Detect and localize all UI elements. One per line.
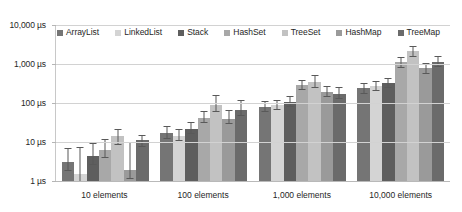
x-axis: 10 elements100 elements1,000 elements10,… — [55, 183, 450, 211]
error-bar-cap-top — [139, 135, 146, 136]
bar[interactable] — [271, 105, 283, 181]
error-bar-cap-bottom — [114, 144, 121, 145]
legend-swatch-icon — [178, 30, 184, 36]
legend-item-treemap[interactable]: TreeMap — [398, 28, 440, 37]
error-bar-cap-top — [188, 122, 195, 123]
error-bar-cap-top — [274, 100, 281, 101]
chart-legend: ArrayListLinkedListStackHashSetTreeSetHa… — [55, 26, 440, 39]
error-bar-cap-top — [385, 78, 392, 79]
error-bar-cap-top — [237, 100, 244, 101]
y-axis-tick-label: 10 µs — [26, 138, 46, 147]
legend-item-treeset[interactable]: TreeSet — [282, 28, 321, 37]
legend-swatch-icon — [282, 30, 288, 36]
error-bar — [400, 57, 401, 67]
bar[interactable] — [370, 86, 382, 181]
legend-swatch-icon — [57, 30, 63, 36]
error-bar-cap-bottom — [422, 73, 429, 74]
error-bar-cap-top — [311, 75, 318, 76]
error-bar — [178, 129, 179, 141]
error-bar-cap-top — [175, 129, 182, 130]
error-bar-cap-top — [397, 57, 404, 58]
error-bar-cap-top — [372, 81, 379, 82]
y-axis-tick-label: 1,000 µs — [14, 60, 46, 69]
error-bar-cap-bottom — [200, 122, 207, 123]
y-axis: 1 µs10 µs100 µs1,000 µs10,000 µs — [0, 0, 54, 212]
error-bar-cap-bottom — [434, 66, 441, 67]
bar[interactable] — [395, 62, 407, 181]
error-bar — [228, 110, 229, 123]
bar[interactable] — [259, 107, 271, 181]
x-axis-tick-label: 10 elements — [55, 183, 154, 211]
bar[interactable] — [173, 136, 185, 181]
error-bar — [68, 148, 69, 170]
error-bar-cap-top — [324, 86, 331, 87]
error-bar-cap-bottom — [262, 111, 269, 112]
error-bar-cap-top — [360, 83, 367, 84]
bar[interactable] — [222, 119, 234, 181]
legend-swatch-icon — [398, 30, 404, 36]
error-bar-cap-bottom — [188, 133, 195, 134]
error-bar-cap-top — [299, 80, 306, 81]
error-bar — [142, 135, 143, 146]
bar[interactable] — [308, 82, 320, 181]
bar[interactable] — [296, 85, 308, 181]
gridline — [56, 64, 450, 65]
error-bar-cap-top — [102, 139, 109, 140]
legend-label: HashMap — [345, 28, 381, 37]
error-bar — [413, 46, 414, 56]
error-bar-cap-bottom — [163, 138, 170, 139]
bar[interactable] — [198, 118, 210, 181]
error-bar — [375, 81, 376, 90]
error-bar — [314, 75, 315, 87]
bar[interactable] — [382, 83, 394, 181]
legend-swatch-icon — [115, 30, 121, 36]
bar[interactable] — [419, 68, 431, 181]
error-bar-cap-top — [200, 111, 207, 112]
legend-label: TreeMap — [407, 28, 440, 37]
legend-swatch-icon — [224, 30, 230, 36]
error-bar — [80, 147, 81, 181]
legend-label: ArrayList — [66, 28, 99, 37]
error-bar-cap-bottom — [286, 106, 293, 107]
gridline — [56, 181, 450, 182]
error-bar — [339, 87, 340, 97]
bar[interactable] — [321, 92, 333, 181]
error-bar-cap-bottom — [274, 109, 281, 110]
error-bar-cap-bottom — [385, 87, 392, 88]
error-bar-cap-bottom — [324, 96, 331, 97]
error-bar-cap-bottom — [397, 67, 404, 68]
legend-item-hashmap[interactable]: HashMap — [336, 28, 381, 37]
error-bar — [130, 142, 131, 178]
legend-label: TreeSet — [291, 28, 321, 37]
error-bar-cap-bottom — [225, 123, 232, 124]
legend-item-arraylist[interactable]: ArrayList — [57, 28, 99, 37]
legend-item-stack[interactable]: Stack — [178, 28, 208, 37]
error-bar-cap-bottom — [65, 170, 72, 171]
legend-item-hashset[interactable]: HashSet — [224, 28, 265, 37]
bar[interactable] — [185, 129, 197, 181]
bar[interactable] — [333, 94, 345, 181]
x-axis-tick-label: 10,000 elements — [351, 183, 450, 211]
legend-item-linkedlist[interactable]: LinkedList — [115, 28, 162, 37]
error-bar-cap-top — [286, 96, 293, 97]
bar[interactable] — [432, 62, 444, 181]
error-bar — [191, 122, 192, 133]
bar[interactable] — [407, 51, 419, 181]
error-bar — [92, 143, 93, 164]
error-bar-cap-bottom — [360, 93, 367, 94]
error-bar — [363, 83, 364, 93]
error-bar-cap-top — [65, 148, 72, 149]
bar[interactable] — [235, 110, 247, 181]
error-bar-cap-top — [89, 143, 96, 144]
error-bar-cap-bottom — [127, 178, 134, 179]
bar[interactable] — [160, 133, 172, 181]
y-axis-tick-label: 1 µs — [30, 177, 46, 186]
error-bar-cap-top — [410, 46, 417, 47]
error-bar-cap-bottom — [213, 111, 220, 112]
y-axis-tick-mark — [52, 64, 56, 65]
error-bar-cap-bottom — [89, 164, 96, 165]
error-bar — [277, 100, 278, 109]
y-axis-tick-label: 10,000 µs — [9, 21, 46, 30]
bar[interactable] — [210, 105, 222, 181]
error-bar-cap-bottom — [139, 146, 146, 147]
